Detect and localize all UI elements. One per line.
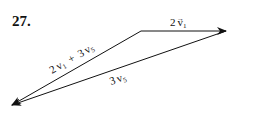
label-3v5: 3v5 (108, 70, 129, 89)
vector-sum-arrow (12, 31, 141, 105)
vector-3v5-arrow (12, 31, 226, 105)
problem-number: 27. (12, 13, 31, 29)
label-sum: 2v1+3v5 (47, 40, 97, 77)
vector-arrow-accent-icon: → (177, 15, 184, 23)
vector-diagram: 27. 2v1 → 3v5 2v1+3v5 (0, 0, 255, 115)
